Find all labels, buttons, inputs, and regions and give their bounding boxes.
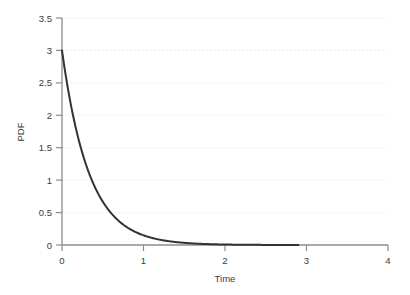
y-axis-title: PDF (15, 122, 26, 141)
chart-figure: 3.5 3 2.5 2 1.5 1 0.5 0 0 1 2 3 4 Time P… (0, 0, 410, 295)
y-tick-label-0: 0 (47, 240, 52, 251)
x-tick-label-4: 4 (385, 255, 390, 266)
x-tick-label-2: 2 (222, 255, 227, 266)
x-tick-label-3: 3 (304, 255, 309, 266)
y-tick-label-2.5: 2.5 (39, 77, 52, 88)
y-tick-label-2: 2 (47, 110, 52, 121)
y-tick-label-3: 3 (47, 45, 52, 56)
y-tick-label-3.5: 3.5 (39, 13, 52, 24)
x-tick-label-0: 0 (59, 255, 64, 266)
x-axis-title: Time (215, 273, 236, 284)
y-tick-label-1: 1 (47, 175, 52, 186)
x-tick-label-1: 1 (141, 255, 146, 266)
y-tick-label-0.5: 0.5 (39, 207, 52, 218)
exponential-pdf-chart: 3.5 3 2.5 2 1.5 1 0.5 0 0 1 2 3 4 Time P… (0, 0, 410, 295)
y-tick-label-1.5: 1.5 (39, 142, 52, 153)
